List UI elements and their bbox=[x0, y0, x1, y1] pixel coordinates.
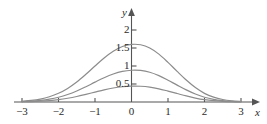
y-axis-ticks bbox=[132, 30, 137, 84]
x-axis-arrow-icon bbox=[252, 99, 260, 106]
x-tick-label: 0 bbox=[122, 106, 142, 117]
x-tick-label: −1 bbox=[85, 106, 105, 117]
y-tick-label: 2 bbox=[98, 24, 130, 35]
x-tick-label: −3 bbox=[12, 106, 32, 117]
x-tick-label: −2 bbox=[49, 106, 69, 117]
gaussian-curves-figure: −3−2−101230.511.52 y x bbox=[0, 0, 267, 124]
y-tick-label: 0.5 bbox=[98, 78, 130, 89]
y-axis-label: y bbox=[122, 7, 127, 18]
y-tick-label: 1 bbox=[98, 60, 130, 71]
x-tick-label: 2 bbox=[195, 106, 215, 117]
y-axis-arrow-icon bbox=[128, 8, 135, 16]
x-tick-label: 1 bbox=[158, 106, 178, 117]
y-tick-label: 1.5 bbox=[98, 42, 130, 53]
x-tick-label: 3 bbox=[231, 106, 251, 117]
x-axis-label: x bbox=[255, 107, 260, 118]
